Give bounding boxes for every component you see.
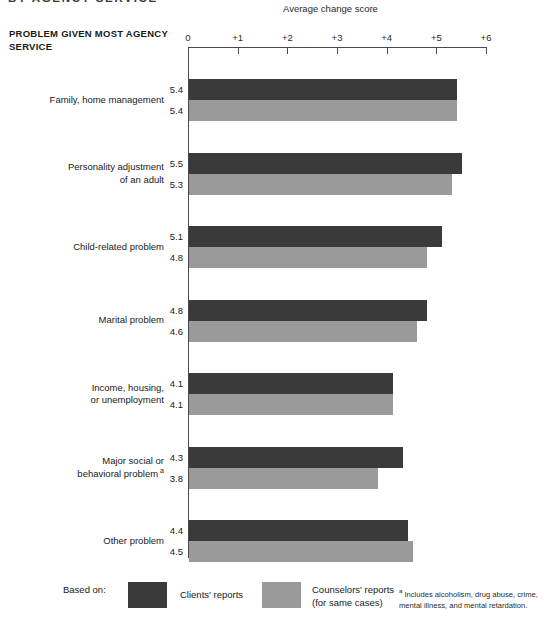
bar-value-label: 4.1 — [170, 394, 183, 415]
x-axis-tick — [238, 47, 239, 54]
bar-counselors — [189, 541, 413, 562]
bar-group: Marital problem4.84.6 — [188, 300, 486, 342]
bar-group: Major social or behavioral problem a4.33… — [188, 447, 486, 489]
x-axis-tick-label: 0 — [185, 32, 190, 43]
x-axis-tick-label: +4 — [381, 32, 392, 43]
bar-value-label: 5.1 — [170, 226, 183, 247]
footnote: a Includes alcoholism, drug abuse, crime… — [399, 586, 541, 611]
bar-group: Other problem4.44.5 — [188, 520, 486, 562]
bar-clients — [189, 447, 403, 468]
chart-plot-area: 0+1+2+3+4+5+6 Family, home management5.4… — [188, 47, 486, 558]
bar-clients — [189, 79, 457, 100]
legend-label-clients: Clients' reports — [180, 589, 243, 600]
bar-clients — [189, 226, 442, 247]
bar-value-label: 5.5 — [170, 153, 183, 174]
category-footnote-marker: a — [158, 466, 164, 473]
x-axis-tick — [188, 47, 189, 54]
footnote-text: Includes alcoholism, drug abuse, crime, … — [399, 590, 538, 610]
x-axis-tick — [436, 47, 437, 54]
bar-value-label: 4.8 — [170, 300, 183, 321]
bar-group: Child-related problem5.14.8 — [188, 226, 486, 268]
legend-label-counselors: Counselors' reports (for same cases) — [312, 583, 394, 609]
category-label: Family, home management — [4, 94, 164, 107]
x-axis-tick-label: +2 — [282, 32, 293, 43]
bar-value-label: 4.5 — [170, 541, 183, 562]
bar-counselors — [189, 321, 417, 342]
x-axis-tick — [387, 47, 388, 54]
x-axis-tick — [337, 47, 338, 54]
legend-based-on-label: Based on: — [63, 584, 106, 595]
bar-group: Family, home management5.45.4 — [188, 79, 486, 121]
bar-clients — [189, 153, 462, 174]
bar-group: Income, housing, or unemployment4.14.1 — [188, 373, 486, 415]
bar-counselors — [189, 468, 378, 489]
bar-value-label: 4.8 — [170, 247, 183, 268]
bar-counselors — [189, 174, 452, 195]
x-axis-tick-label: +5 — [431, 32, 442, 43]
category-label: Other problem — [4, 535, 164, 548]
bar-group: Personality adjustment of an adult5.55.3 — [188, 153, 486, 195]
bar-value-label: 4.6 — [170, 321, 183, 342]
legend-swatch-clients — [128, 582, 167, 608]
x-axis-tick — [287, 47, 288, 54]
bar-clients — [189, 300, 427, 321]
category-label: Major social or behavioral problem a — [4, 455, 164, 480]
x-axis-tick — [486, 47, 487, 54]
bar-value-label: 5.4 — [170, 79, 183, 100]
bar-value-label: 4.3 — [170, 447, 183, 468]
cut-off-page-title: BY AGENCY SERVICE — [8, 0, 308, 5]
cut-off-page-title-text: BY AGENCY SERVICE — [8, 0, 308, 5]
category-column-header: PROBLEM GIVEN MOST AGENCY SERVICE — [9, 28, 174, 53]
category-label: Personality adjustment of an adult — [4, 161, 164, 186]
category-label: Income, housing, or unemployment — [4, 382, 164, 407]
x-axis-tick-label: +1 — [232, 32, 243, 43]
bar-clients — [189, 520, 408, 541]
x-axis-tick-label: +6 — [481, 32, 492, 43]
bar-clients — [189, 373, 393, 394]
legend-swatch-counselors — [262, 582, 301, 608]
x-axis-tick-label: +3 — [332, 32, 343, 43]
bar-value-label: 3.8 — [170, 468, 183, 489]
bar-counselors — [189, 247, 427, 268]
category-label: Marital problem — [4, 314, 164, 327]
bar-value-label: 5.3 — [170, 174, 183, 195]
x-axis-title: Average change score — [283, 3, 378, 14]
footnote-marker: a — [399, 588, 402, 594]
bar-value-label: 4.1 — [170, 373, 183, 394]
bar-value-label: 4.4 — [170, 520, 183, 541]
bar-value-label: 5.4 — [170, 100, 183, 121]
bar-counselors — [189, 394, 393, 415]
bar-counselors — [189, 100, 457, 121]
category-label: Child-related problem — [4, 241, 164, 254]
